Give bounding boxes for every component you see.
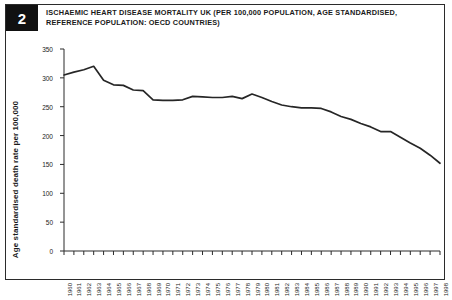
- x-axis-tick-label: 1970: [165, 283, 171, 296]
- x-axis-tick-label: 1975: [215, 283, 221, 296]
- y-axis-ticks: 050100150200250300350: [28, 31, 56, 279]
- x-axis-tick-label: 1994: [403, 283, 409, 296]
- x-axis-tick-label: 1973: [195, 283, 201, 296]
- x-axis-tick-label: 1976: [225, 283, 231, 296]
- x-axis-tick-label: 1981: [274, 283, 280, 296]
- x-axis-tick-label: 1996: [423, 283, 429, 296]
- y-axis-tick-label: 50: [31, 219, 56, 226]
- line-chart-svg: [6, 31, 446, 279]
- x-axis-tick-label: 1989: [353, 283, 359, 296]
- figure-title: ISCHAEMIC HEART DISEASE MORTALITY UK (PE…: [38, 5, 444, 29]
- x-axis-tick-label: 1993: [393, 283, 399, 296]
- figure-number-badge: 2: [6, 5, 38, 31]
- x-axis-tick-label: 1990: [363, 283, 369, 296]
- x-axis-tick-label: 1964: [106, 283, 112, 296]
- y-axis-tick-label: 300: [31, 74, 56, 81]
- y-axis-tick-label: 200: [31, 132, 56, 139]
- x-axis-tick-label: 1992: [383, 283, 389, 296]
- x-axis-tick-label: 1984: [304, 283, 310, 296]
- x-axis-tick-label: 1961: [76, 283, 82, 296]
- x-axis-tick-label: 1997: [433, 283, 439, 296]
- x-axis-tick-label: 1962: [86, 283, 92, 296]
- y-axis-label: Age standardised death rate per 100,000: [9, 79, 23, 279]
- x-axis-tick-label: 1987: [334, 283, 340, 296]
- y-axis-tick-label: 150: [31, 161, 56, 168]
- x-axis-ticks: 1960196119621963196419651966196719681969…: [6, 279, 446, 300]
- figure-header: 2 ISCHAEMIC HEART DISEASE MORTALITY UK (…: [6, 5, 444, 31]
- x-axis-tick-label: 1963: [96, 283, 102, 296]
- x-axis-tick-label: 1977: [235, 283, 241, 296]
- x-axis-tick-label: 1972: [185, 283, 191, 296]
- x-axis-tick-label: 1980: [264, 283, 270, 296]
- x-axis-tick-label: 1979: [255, 283, 261, 296]
- x-axis-tick-label: 1982: [284, 283, 290, 296]
- x-axis-tick-label: 1995: [413, 283, 419, 296]
- x-axis-tick-label: 1969: [156, 283, 162, 296]
- x-axis-tick-label: 1967: [136, 283, 142, 296]
- x-axis-tick-label: 1988: [344, 283, 350, 296]
- x-axis-tick-label: 1971: [175, 283, 181, 296]
- x-axis-tick-label: 1966: [126, 283, 132, 296]
- chart-plot-area: Age standardised death rate per 100,000 …: [6, 31, 446, 279]
- y-axis-tick-label: 0: [31, 248, 56, 255]
- x-axis-tick-label: 1991: [373, 283, 379, 296]
- x-axis-tick-label: 1986: [324, 283, 330, 296]
- x-axis-tick-label: 1960: [67, 283, 73, 296]
- y-axis-tick-label: 350: [31, 46, 56, 53]
- y-axis-label-text: Age standardised death rate per 100,000: [12, 100, 21, 257]
- x-axis-tick-label: 1965: [116, 283, 122, 296]
- data-series-line: [64, 66, 440, 163]
- y-axis-tick-label: 250: [31, 103, 56, 110]
- x-axis-tick-label: 1985: [314, 283, 320, 296]
- x-axis-tick-label: 1968: [146, 283, 152, 296]
- x-axis-tick-label: 1983: [294, 283, 300, 296]
- x-axis-tick-label: 1978: [245, 283, 251, 296]
- figure-frame: 2 ISCHAEMIC HEART DISEASE MORTALITY UK (…: [5, 4, 445, 280]
- x-axis-tick-label: 1998: [443, 283, 449, 296]
- x-axis-tick-label: 1974: [205, 283, 211, 296]
- y-axis-tick-label: 100: [31, 190, 56, 197]
